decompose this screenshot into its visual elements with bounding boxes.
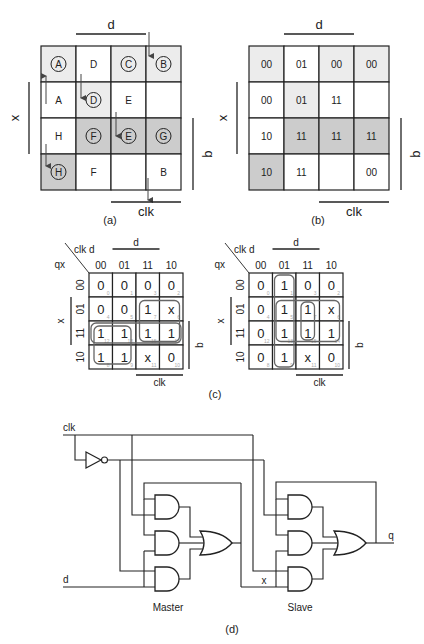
slave-and-gate-3-icon xyxy=(288,567,312,591)
kmap-cell: 113 xyxy=(113,321,137,345)
master-and-gate-1-icon xyxy=(155,495,179,519)
caption-c: (c) xyxy=(209,388,222,400)
kmap-excitation-c: 00010302040517x61121131151141819x11010cl… xyxy=(54,237,366,400)
cell-value: 0 xyxy=(168,278,175,293)
kmap-cell: 11 xyxy=(319,82,354,118)
internal-x-label: x xyxy=(262,575,267,586)
minterm-index: 1 xyxy=(130,290,133,296)
row-header: 10 xyxy=(75,351,86,363)
figure-canvas: ADCBADEHFEGHFBdxqclk(a) 0001000000011110… xyxy=(0,0,424,644)
kmap-cell xyxy=(354,82,389,118)
kmap-cell: x11 xyxy=(136,345,160,369)
slave-feedback-to-and2 xyxy=(276,499,288,535)
col-header: 01 xyxy=(119,260,131,271)
row-header: 10 xyxy=(235,351,246,363)
encoded-state: 01 xyxy=(296,95,308,106)
col-header: 00 xyxy=(255,260,267,271)
kmap-cell xyxy=(111,154,146,190)
cell-value: 0 xyxy=(121,302,128,317)
kmap-q: 00110302041517x60121131151140819x11010cl… xyxy=(214,237,366,388)
state-label: E xyxy=(125,95,132,106)
label-d: d xyxy=(293,237,299,248)
encoded-state: 11 xyxy=(331,95,342,106)
state-label: B xyxy=(160,167,167,178)
corner-col-vars: clk d xyxy=(74,244,95,255)
encoded-state: 11 xyxy=(331,131,342,142)
cell-value: 1 xyxy=(144,302,151,317)
minterm-index: 8 xyxy=(267,362,270,368)
cell-value: 0 xyxy=(257,302,264,317)
minterm-index: 1 xyxy=(290,290,293,296)
row-header: 00 xyxy=(235,279,246,291)
state-label: F xyxy=(90,131,96,142)
master-label: Master xyxy=(153,602,184,613)
col-header: 01 xyxy=(279,260,291,271)
cell-value: x xyxy=(328,302,335,317)
kmap-cell: 00 xyxy=(354,154,389,190)
kmap-cell: F xyxy=(76,154,111,190)
minterm-index: 10 xyxy=(334,362,340,368)
caption-b: (b) xyxy=(311,214,324,226)
col-header: 10 xyxy=(326,260,338,271)
minterm-index: 5 xyxy=(290,314,293,320)
row-header: 01 xyxy=(75,303,86,315)
state-label: F xyxy=(90,167,96,178)
state-label: A xyxy=(55,59,62,70)
col-header: 11 xyxy=(143,260,154,271)
slave-label: Slave xyxy=(287,602,312,613)
clk-to-inverter-wire xyxy=(75,435,86,460)
master-feedback-to-and2 xyxy=(144,499,155,535)
label-x: x xyxy=(7,114,22,121)
slave-x-to-and2 xyxy=(276,551,288,587)
state-label: D xyxy=(90,95,97,106)
kmap-cell: B xyxy=(146,46,181,82)
cell-value: 1 xyxy=(304,302,311,317)
encoded-state: 00 xyxy=(261,59,273,70)
cell-value: 1 xyxy=(97,350,104,365)
minterm-index: 2 xyxy=(177,290,180,296)
caption-a: (a) xyxy=(103,214,116,226)
kmap-cell: 05 xyxy=(113,297,137,321)
row-header: 00 xyxy=(75,279,86,291)
state-label: H xyxy=(55,167,62,178)
slave-and3-out xyxy=(312,549,337,579)
kmap-cell: 01 xyxy=(284,82,319,118)
label-x: x xyxy=(55,319,66,324)
kmap-cell: 01 xyxy=(113,273,137,297)
label-q: q xyxy=(202,150,217,157)
slave-and-gate-1-icon xyxy=(288,495,312,519)
minterm-index: 3 xyxy=(314,290,317,296)
cell-value: 1 xyxy=(121,350,128,365)
kmap-cell: 19 xyxy=(113,345,137,369)
label-x: x xyxy=(215,319,226,324)
kmap-cell xyxy=(319,154,354,190)
kmap-state-assignment-a: ADCBADEHFEGHFBdxqclk(a) xyxy=(7,17,217,226)
kmap-cell: 08 xyxy=(249,345,273,369)
label-q: q xyxy=(195,342,206,348)
encoded-state: 00 xyxy=(261,95,273,106)
state-label: A xyxy=(55,95,62,106)
slave-and-gate-2-icon xyxy=(288,531,312,555)
col-header: 00 xyxy=(95,260,107,271)
input-clk-label: clk xyxy=(63,422,76,433)
kmap-x: 00010302040517x61121131151141819x11010cl… xyxy=(54,237,206,388)
encoded-state: 11 xyxy=(366,131,377,142)
state-label: B xyxy=(160,59,167,70)
col-header: 10 xyxy=(166,260,178,271)
kmap-cell xyxy=(146,82,181,118)
encoded-state: 00 xyxy=(331,59,343,70)
master-slave-circuit-d: clkdxMasterqSlave(d) xyxy=(63,422,394,635)
kmap-encoded-states-b: 0001000000011110111111101100dxqclk(b) xyxy=(215,17,424,226)
cell-value: x xyxy=(168,302,175,317)
encoded-state: 11 xyxy=(296,167,307,178)
minterm-index: 3 xyxy=(154,290,157,296)
minterm-index: 7 xyxy=(154,314,157,320)
slave-or-gate-icon xyxy=(334,531,366,555)
kmap-cell: 00 xyxy=(249,273,273,297)
label-q: q xyxy=(355,342,366,348)
kmap-cell: 11 xyxy=(354,118,389,154)
slave-and1-out xyxy=(312,507,337,537)
label-clk: clk xyxy=(346,204,362,219)
minterm-index: 11 xyxy=(151,362,156,368)
master-and-gate-3-icon xyxy=(155,567,179,591)
